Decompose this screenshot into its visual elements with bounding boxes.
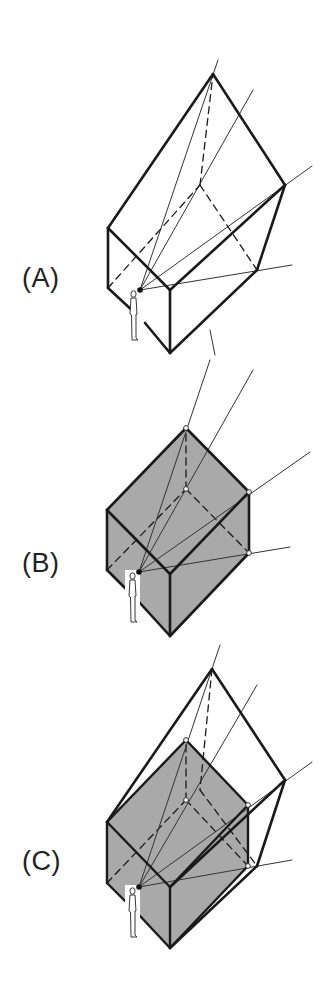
figure-head <box>130 573 135 579</box>
panel-label-b: (B) <box>22 550 60 577</box>
sight-ray <box>140 90 253 290</box>
vertex-node-icon <box>246 803 251 808</box>
figure-head <box>130 888 135 894</box>
figure-head <box>131 291 136 297</box>
volume-edge <box>212 669 285 780</box>
hidden-edge <box>200 185 257 270</box>
vertex-node-icon <box>184 738 189 743</box>
vertex-node-icon <box>247 490 252 495</box>
eye-point-icon <box>136 884 142 890</box>
panel-a-diagram <box>108 60 312 355</box>
eye-point-icon <box>137 287 143 293</box>
figure-canvas: (A) (B) (C) <box>0 0 335 993</box>
panel-c-diagram <box>107 645 312 948</box>
vertex-node-icon <box>184 798 189 803</box>
human-figure-icon <box>125 885 140 939</box>
vertex-node-icon <box>247 551 252 556</box>
panel-label-a: (A) <box>22 265 60 292</box>
vertex-node-icon <box>184 426 189 431</box>
eye-point-icon <box>136 569 142 575</box>
human-figure-icon <box>125 570 140 624</box>
human-figure-icon <box>130 291 138 340</box>
volume-edge <box>108 74 213 228</box>
tick-mark <box>210 330 215 355</box>
panel-label-c: (C) <box>22 848 61 875</box>
vertex-node-icon <box>246 864 251 869</box>
figure-body <box>130 298 138 340</box>
volume-edge <box>108 228 170 290</box>
vertex-node-icon <box>184 487 189 492</box>
panel-b-diagram <box>107 360 310 636</box>
volume-edge <box>145 323 170 353</box>
volume-edge <box>213 74 285 185</box>
isometric-diagram <box>0 0 335 993</box>
sight-ray <box>140 265 292 290</box>
